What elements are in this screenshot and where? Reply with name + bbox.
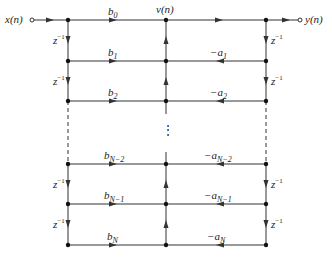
coef-b0: b0 [108,6,118,20]
delay-left-n-1: z−1 [53,178,65,190]
input-terminal [30,18,34,22]
delay-right-2: z−1 [271,75,283,87]
input-label: x(n) [5,14,23,25]
coef-b1: b1 [108,47,118,61]
coef-bN-1: bN−1 [104,190,124,204]
coef-aN-1: −aN−1 [204,190,232,204]
delay-left-n: z−1 [53,218,65,230]
center-node-label: v(n) [156,4,174,15]
coef-aN: −aN [207,231,225,245]
coef-a2: −a2 [210,87,227,101]
delay-left-1: z−1 [53,34,65,46]
coef-bN-2: bN−2 [104,150,124,164]
coef-aN-2: −aN−2 [204,150,232,164]
output-label: y(n) [305,14,323,25]
coef-bN: bN [107,231,118,245]
output-terminal [298,18,302,22]
delay-right-n-1: z−1 [271,178,283,190]
delay-right-1: z−1 [271,34,283,46]
delay-right-n: z−1 [271,218,283,230]
delay-left-2: z−1 [53,75,65,87]
coef-b2: b2 [108,87,118,101]
coef-a1: −a1 [210,47,227,61]
ellipsis: ⋮ [162,124,174,136]
